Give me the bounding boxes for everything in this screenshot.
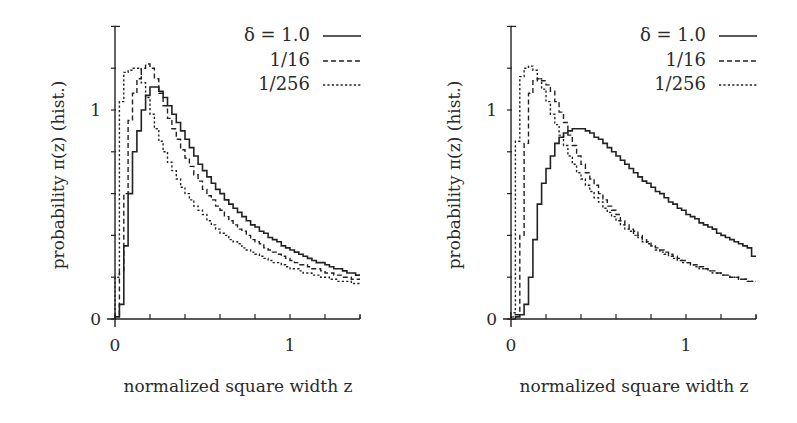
right-series-dotted	[511, 66, 756, 319]
left-legend-label-dashed: 1/16	[270, 49, 310, 70]
right-series-solid	[511, 129, 756, 319]
left-ytick-1: 1	[90, 100, 101, 120]
right-panel: 0 1 0 1 normalized square width z probab…	[444, 24, 757, 396]
figure-canvas: 0 1 0 1 normalized square width z probab…	[0, 0, 797, 423]
left-series-dashed	[115, 64, 360, 319]
left-x-axis-label: normalized square width z	[123, 376, 352, 396]
left-panel: 0 1 0 1 normalized square width z probab…	[48, 24, 361, 396]
left-legend-label-solid: δ = 1.0	[244, 24, 310, 45]
left-legend: δ = 1.0 1/16 1/256	[244, 24, 361, 94]
left-series-solid	[115, 87, 360, 319]
right-xtick-1: 1	[681, 335, 692, 355]
right-ytick-0: 0	[486, 309, 497, 329]
right-legend: δ = 1.0 1/16 1/256	[640, 24, 757, 94]
figure: 0 1 0 1 normalized square width z probab…	[0, 0, 797, 423]
left-xtick-1: 1	[285, 335, 296, 355]
right-series-dashed	[511, 79, 756, 319]
right-y-axis-label: probability π(z) (hist.)	[444, 81, 464, 270]
right-legend-label-dashed: 1/16	[666, 49, 706, 70]
right-legend-label-solid: δ = 1.0	[640, 24, 706, 45]
right-xtick-0: 0	[506, 335, 517, 355]
left-series-dotted	[115, 68, 360, 319]
right-ytick-1: 1	[486, 100, 497, 120]
left-plot-area	[107, 26, 360, 327]
left-xtick-0: 0	[110, 335, 121, 355]
right-x-axis-label: normalized square width z	[519, 376, 748, 396]
left-ytick-0: 0	[90, 309, 101, 329]
right-plot-area	[503, 26, 756, 327]
left-legend-label-dotted: 1/256	[258, 73, 310, 94]
left-y-axis-label: probability π(z) (hist.)	[48, 81, 68, 270]
right-legend-label-dotted: 1/256	[654, 73, 706, 94]
